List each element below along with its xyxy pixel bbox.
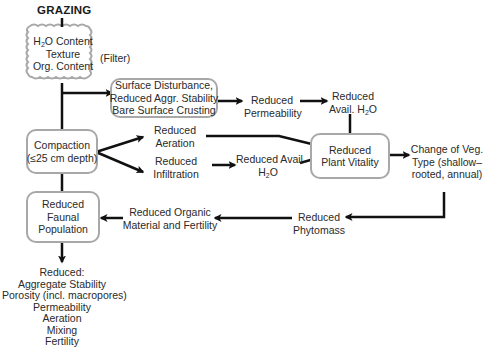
reduced-effects-list: Reduced: Aggregate Stability Porosity (i… <box>2 267 122 348</box>
edge-compaction-infiltration <box>96 152 143 172</box>
reduced-effects-heading: Reduced: <box>2 267 122 279</box>
reduced-effects-item: Porosity (incl. macropores) <box>2 290 122 302</box>
compaction-node: Compaction (≤25 cm depth) <box>26 129 98 174</box>
reduced-plant-vitality-node: Reduced Plant Vitality <box>310 133 390 179</box>
surface-disturbance-line2: Reduced Aggr. Stability <box>110 92 219 105</box>
soil-org-content: Org. Content <box>28 60 98 73</box>
surface-disturbance-line1: Surface Disturbance, <box>115 79 213 92</box>
reduced-faunal-node: Reduced Faunal Population <box>26 191 100 243</box>
grazing-label: GRAZING <box>37 4 91 16</box>
surface-disturbance-line3: Bare Surface Crusting <box>112 104 215 117</box>
reduced-avail-h2o-top-node: Reduced Avail. H2O <box>325 90 381 115</box>
reduced-permeability-node: Reduced Permeability <box>244 94 300 119</box>
soil-h2o-content: H2O Content <box>28 35 98 48</box>
filter-annotation: (Filter) <box>100 52 130 65</box>
reduced-organic-node: Reduced Organic Material and Fertility <box>120 206 220 231</box>
change-veg-type-node: Change of Veg. Type (shallow– rooted, an… <box>410 143 484 181</box>
reduced-avail-h2o-mid-node: Reduced Avail. H2O <box>236 153 300 178</box>
reduced-phytomass-node: Reduced Phytomass <box>292 211 346 236</box>
edge-compaction-aeration <box>96 137 143 152</box>
reduced-aeration-node: Reduced Aeration <box>147 124 203 149</box>
soil-texture: Texture <box>28 48 98 61</box>
surface-disturbance-node: Surface Disturbance, Reduced Aggr. Stabi… <box>110 78 218 118</box>
soil-properties-node: H2O Content Texture Org. Content <box>28 35 98 73</box>
edge-vegtype-phytomass <box>346 192 444 217</box>
reduced-effects-item: Aeration <box>2 313 122 325</box>
reduced-infiltration-node: Reduced Infiltration <box>146 155 206 180</box>
reduced-effects-item: Fertility <box>2 336 122 348</box>
